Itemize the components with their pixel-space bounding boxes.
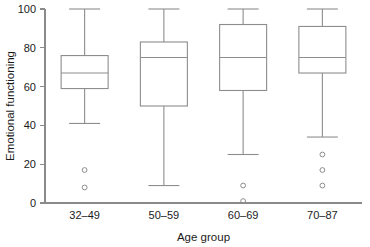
- outlier-point: [82, 185, 87, 190]
- outlier-point: [241, 183, 246, 188]
- outlier-point: [320, 183, 325, 188]
- x-tick-label: 50–59: [149, 209, 180, 221]
- y-tick-label: 80: [24, 42, 36, 54]
- x-tick-label: 32–49: [69, 209, 100, 221]
- box-group: [299, 9, 346, 188]
- outlier-point: [320, 168, 325, 173]
- x-tick-label: 60–69: [228, 209, 259, 221]
- y-tick-label: 40: [24, 119, 36, 131]
- box-iqr: [61, 56, 108, 89]
- box-iqr: [140, 42, 187, 106]
- box-iqr: [299, 26, 346, 73]
- boxplot-svg: 020406080100 32–4950–5960–6970–87 Emotio…: [0, 0, 370, 247]
- box-group: [140, 9, 187, 186]
- x-tick-label: 70–87: [307, 209, 338, 221]
- box-group: [61, 9, 108, 190]
- outlier-point: [320, 152, 325, 157]
- box-group: [220, 9, 267, 203]
- outlier-point: [82, 168, 87, 173]
- y-tick-label: 20: [24, 158, 36, 170]
- x-axis: 32–4950–5960–6970–87: [45, 203, 362, 221]
- x-axis-title: Age group: [177, 231, 230, 243]
- y-tick-label: 100: [18, 3, 36, 15]
- y-axis: 020406080100: [18, 3, 45, 209]
- box-series: [61, 9, 346, 203]
- boxplot-figure: 020406080100 32–4950–5960–6970–87 Emotio…: [0, 0, 370, 247]
- y-tick-label: 0: [30, 197, 36, 209]
- y-axis-title: Emotional functioning: [4, 51, 16, 161]
- y-tick-label: 60: [24, 81, 36, 93]
